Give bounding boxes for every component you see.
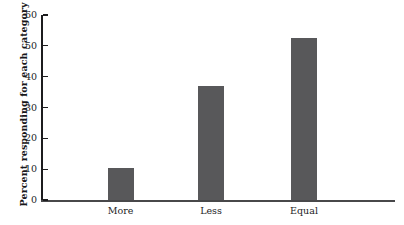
x-tick-label-less: Less	[176, 205, 246, 216]
x-axis-line	[41, 200, 395, 202]
y-tick-label: 0	[11, 195, 37, 205]
y-tick-label: 20	[11, 133, 37, 143]
y-tick-mark	[43, 14, 48, 15]
y-tick-mark	[43, 169, 48, 170]
y-tick-mark	[43, 107, 48, 108]
y-tick-label: 50	[11, 41, 37, 51]
x-tick-label-equal: Equal	[269, 205, 339, 216]
y-tick-label: 40	[11, 72, 37, 82]
x-tick-label-more: More	[86, 205, 156, 216]
bar-chart-figure: Percent responding for each category 0 1…	[0, 0, 404, 225]
y-tick-mark	[43, 45, 48, 46]
bar-less	[198, 86, 224, 200]
y-tick-label: 10	[11, 164, 37, 174]
bar-equal	[291, 38, 317, 200]
y-tick-mark	[43, 199, 48, 200]
y-tick-mark	[43, 76, 48, 77]
bar-more	[108, 168, 134, 200]
y-tick-mark	[43, 138, 48, 139]
y-tick-label: 60	[11, 10, 37, 20]
y-tick-label: 30	[11, 103, 37, 113]
